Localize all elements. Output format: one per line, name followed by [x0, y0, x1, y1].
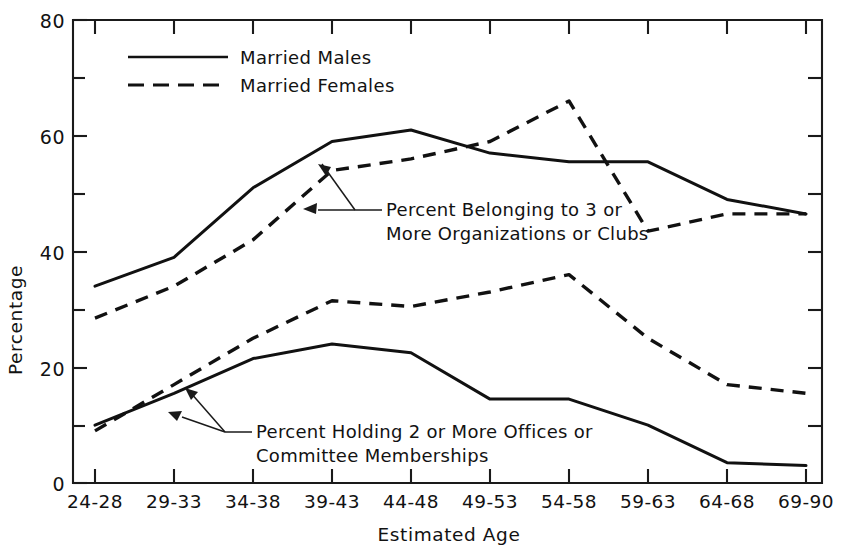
- plot-border: [73, 20, 822, 483]
- y-tick-label-80: 80: [40, 10, 65, 32]
- annotation-lower-arrowhead-2: [168, 411, 182, 421]
- chart-container: 80 60 40 20 0 Percentage: [0, 0, 846, 555]
- y-axis-tick-labels: 80 60 40 20 0: [40, 10, 65, 495]
- annotation-upper: Percent Belonging to 3 or More Organizat…: [303, 164, 649, 244]
- x-axis-tick-labels: 24-28 29-33 34-38 39-43 44-48 49-53 54-5…: [67, 491, 834, 512]
- x-tick-label-3: 39-43: [304, 491, 360, 512]
- y-tick-label-40: 40: [40, 242, 65, 264]
- line-chart-figure: 80 60 40 20 0 Percentage: [0, 0, 846, 555]
- legend-label-married-males: Married Males: [240, 47, 371, 68]
- annotation-upper-line-2: More Organizations or Clubs: [386, 223, 649, 244]
- y-tick-label-60: 60: [40, 126, 65, 148]
- data-series-group: [95, 101, 806, 466]
- legend: Married Males Married Females: [128, 47, 395, 96]
- x-axis-title: Estimated Age: [378, 524, 521, 545]
- x-tick-label-9: 69-90: [778, 491, 834, 512]
- annotation-upper-line-1: Percent Belonging to 3 or: [386, 199, 622, 220]
- x-tick-label-4: 44-48: [383, 491, 439, 512]
- y-axis-major-ticks: [73, 20, 87, 483]
- annotation-lower-line-2: Committee Memberships: [256, 445, 489, 466]
- annotation-upper-arrowhead-2: [303, 203, 317, 214]
- legend-label-married-females: Married Females: [240, 75, 395, 96]
- x-tick-label-0: 24-28: [67, 491, 123, 512]
- y-tick-label-20: 20: [40, 358, 65, 380]
- x-tick-label-1: 29-33: [146, 491, 202, 512]
- axes-frame: [73, 20, 822, 483]
- x-tick-label-8: 64-68: [699, 491, 755, 512]
- x-tick-label-5: 49-53: [462, 491, 518, 512]
- right-axis-ticks: [808, 78, 822, 426]
- x-axis-ticks: [95, 20, 806, 483]
- x-tick-label-6: 54-58: [541, 491, 597, 512]
- y-tick-label-0: 0: [52, 473, 65, 495]
- series-lower-married-females: [95, 275, 806, 431]
- annotation-lower-line-1: Percent Holding 2 or More Offices or: [256, 421, 593, 442]
- y-axis-title: Percentage: [5, 265, 26, 375]
- x-tick-label-2: 34-38: [225, 491, 281, 512]
- x-tick-label-7: 59-63: [620, 491, 676, 512]
